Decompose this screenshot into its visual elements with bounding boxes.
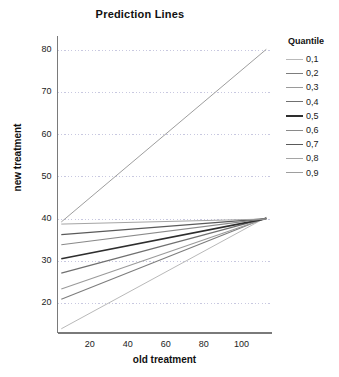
legend-line-swatch [286, 59, 303, 60]
legend-item-label: 0,6 [306, 125, 319, 135]
legend-item-label: 0,9 [306, 168, 319, 178]
legend-item-label: 0,2 [306, 68, 319, 78]
legend-item-label: 0,1 [306, 54, 319, 64]
legend-item-label: 0,4 [306, 97, 319, 107]
legend-line-swatch [286, 87, 303, 88]
legend-item[interactable]: 0,1 [286, 52, 319, 66]
prediction-lines-chart: Prediction Lines new treatment old treat… [0, 0, 339, 377]
legend-item[interactable]: 0,8 [286, 151, 319, 165]
legend-item[interactable]: 0,7 [286, 137, 319, 151]
legend-line-swatch [286, 73, 303, 74]
legend-line-swatch [286, 130, 303, 131]
legend-item[interactable]: 0,6 [286, 123, 319, 137]
legend-item-label: 0,3 [306, 82, 319, 92]
legend-item[interactable]: 0,9 [286, 166, 319, 180]
legend-item[interactable]: 0,5 [286, 109, 319, 123]
legend-line-swatch [286, 158, 303, 159]
prediction-line [61, 219, 266, 259]
prediction-line [61, 217, 266, 328]
prediction-line [61, 49, 266, 222]
legend-item[interactable]: 0,4 [286, 95, 319, 109]
prediction-line [61, 218, 266, 289]
legend-line-swatch [286, 101, 303, 102]
legend-item-label: 0,7 [306, 139, 319, 149]
legend-item-label: 0,8 [306, 153, 319, 163]
legend-item[interactable]: 0,2 [286, 66, 319, 80]
legend-title: Quantile [288, 36, 324, 46]
legend-line-swatch [286, 144, 303, 145]
legend-line-swatch [286, 115, 303, 117]
legend-line-swatch [286, 172, 303, 173]
legend-item-label: 0,5 [306, 111, 319, 121]
prediction-line [61, 218, 266, 299]
legend-item[interactable]: 0,3 [286, 80, 319, 94]
